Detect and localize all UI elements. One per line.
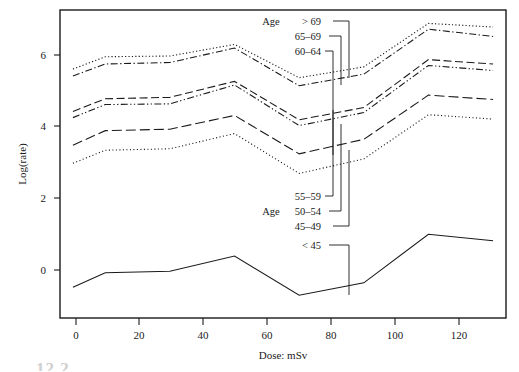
- x-tick-label-40: 40: [198, 329, 210, 341]
- legend-label-55-59[interactable]: 55–59: [295, 191, 321, 202]
- series-line-lt-45: [73, 234, 493, 295]
- y-axis-title: Log(rate): [16, 143, 29, 185]
- x-tick-label-0: 0: [73, 329, 79, 341]
- figure-caption-artifact: 12.2: [36, 360, 70, 371]
- series-line-45-49: [73, 115, 493, 174]
- x-axis-title: Dose: mSv: [259, 349, 308, 361]
- legend-group-label-top: Age: [262, 16, 280, 27]
- figure-container: 6 4 2 0 Log(rate) 0 20 40 60 80 100 120 …: [0, 0, 519, 372]
- legend-label-50-54[interactable]: 50–54: [295, 206, 322, 217]
- legend-label-65-69[interactable]: 65–69: [295, 31, 321, 42]
- line-chart: 6 4 2 0 Log(rate) 0 20 40 60 80 100 120 …: [0, 0, 519, 372]
- x-axis-ticks: [76, 318, 459, 325]
- series-line-50-54: [73, 95, 493, 154]
- legend-label-60-64[interactable]: 60–64: [295, 46, 322, 57]
- legend-label-lt-45[interactable]: < 45: [302, 240, 321, 251]
- series-line-65-69: [73, 29, 493, 86]
- y-axis-ticks: [54, 55, 60, 270]
- y-tick-label-6: 6: [41, 49, 47, 61]
- legend-label-gt-69[interactable]: > 69: [302, 16, 321, 27]
- x-tick-label-100: 100: [387, 329, 404, 341]
- legend-leaders-top: [325, 21, 349, 155]
- y-tick-label-0: 0: [41, 264, 47, 276]
- series-line-60-64: [73, 60, 493, 120]
- legend-group-label-bottom: Age: [262, 206, 280, 217]
- legend-leaders-bottom: [325, 110, 349, 295]
- legend-label-45-49[interactable]: 45–49: [295, 221, 321, 232]
- x-tick-label-120: 120: [451, 329, 468, 341]
- series-line-gt-69: [73, 23, 493, 77]
- y-tick-label-4: 4: [41, 120, 47, 132]
- x-tick-label-20: 20: [134, 329, 146, 341]
- y-tick-label-2: 2: [41, 192, 47, 204]
- data-series-group: [73, 23, 493, 295]
- x-tick-label-60: 60: [262, 329, 274, 341]
- x-tick-label-80: 80: [326, 329, 338, 341]
